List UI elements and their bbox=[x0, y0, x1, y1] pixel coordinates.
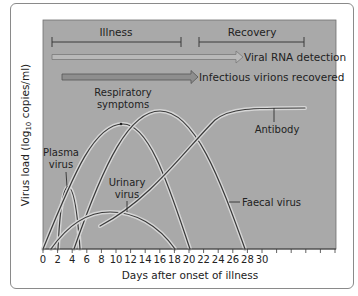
phase-illness-label: Illness bbox=[100, 26, 133, 38]
x-axis-label: Days after onset of illness bbox=[122, 269, 258, 281]
svg-text:Antibody: Antibody bbox=[255, 124, 300, 135]
svg-text:Respiratory: Respiratory bbox=[94, 87, 151, 98]
x-tick-label: 16 bbox=[153, 254, 166, 265]
svg-text:Urinary: Urinary bbox=[109, 177, 146, 188]
x-tick-label: 14 bbox=[139, 254, 152, 265]
svg-text:virus: virus bbox=[49, 159, 73, 170]
x-tick-label: 28 bbox=[241, 254, 254, 265]
x-tick-label: 26 bbox=[226, 254, 239, 265]
x-tick-label: 12 bbox=[124, 254, 137, 265]
y-axis-label: Virus load (log10 copies/ml) bbox=[19, 64, 33, 206]
x-tick-label: 0 bbox=[40, 254, 46, 265]
x-tick-label: 8 bbox=[98, 254, 104, 265]
x-tick-label: 22 bbox=[197, 254, 210, 265]
svg-text:Faecal virus: Faecal virus bbox=[242, 197, 301, 208]
x-tick-label: 24 bbox=[212, 254, 225, 265]
x-tick-label: 4 bbox=[69, 254, 75, 265]
svg-text:virus: virus bbox=[115, 189, 139, 200]
x-tick-label: 6 bbox=[84, 254, 90, 265]
x-tick-label: 10 bbox=[110, 254, 123, 265]
phase-recovery-label: Recovery bbox=[228, 26, 277, 38]
arrow-viral-rna-label: Viral RNA detection bbox=[244, 51, 346, 63]
x-axis: 0 2 4 6 8 10 12 14 16 18 20 22 24 26 28 … bbox=[40, 249, 336, 281]
svg-text:Plasma: Plasma bbox=[43, 147, 79, 158]
x-tick-label: 2 bbox=[54, 254, 60, 265]
svg-text:symptoms: symptoms bbox=[97, 99, 149, 110]
virus-load-chart: Illness Recovery Viral RNA detection Inf… bbox=[0, 0, 358, 296]
x-tick-label: 18 bbox=[168, 254, 181, 265]
x-tick-label: 30 bbox=[256, 254, 269, 265]
arrow-infectious-virions-label: Infectious virions recovered bbox=[199, 71, 344, 83]
x-tick-label: 20 bbox=[183, 254, 196, 265]
